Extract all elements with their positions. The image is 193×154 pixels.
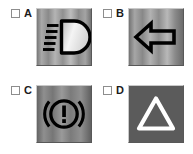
answer-options-grid: A xyxy=(0,0,193,154)
symbol-tile-c[interactable] xyxy=(36,85,92,143)
choice-letter-a: A xyxy=(24,9,32,18)
checkbox-c[interactable] xyxy=(11,86,20,95)
left-turn-arrow-icon xyxy=(128,8,184,66)
low-beam-headlight-icon xyxy=(36,8,92,66)
answer-option-c[interactable]: C xyxy=(0,77,93,154)
answer-option-a[interactable]: A xyxy=(0,0,93,77)
symbol-tile-a[interactable] xyxy=(36,8,92,66)
symbol-tile-d[interactable] xyxy=(128,85,184,143)
checkbox-a[interactable] xyxy=(11,9,20,18)
symbol-tile-b[interactable] xyxy=(128,8,184,66)
answer-option-d[interactable]: D xyxy=(92,77,185,154)
checkbox-b[interactable] xyxy=(103,9,112,18)
choice-letter-b: B xyxy=(116,9,124,18)
choice-head-c: C xyxy=(11,86,32,95)
brake-warning-icon xyxy=(36,85,92,143)
checkbox-d[interactable] xyxy=(103,86,112,95)
choice-head-a: A xyxy=(11,9,32,18)
choice-letter-c: C xyxy=(24,86,32,95)
choice-head-b: B xyxy=(103,9,124,18)
hazard-warning-triangle-icon xyxy=(128,85,184,143)
answer-option-b[interactable]: B xyxy=(92,0,185,77)
choice-head-d: D xyxy=(103,86,124,95)
choice-letter-d: D xyxy=(116,86,124,95)
